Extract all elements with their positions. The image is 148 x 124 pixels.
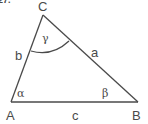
side-label-c: c (72, 108, 79, 123)
vertex-label-a: A (6, 108, 15, 123)
angle-label-alpha: α (17, 87, 25, 100)
side-label-a: a (91, 45, 99, 60)
vertex-label-b: B (132, 108, 141, 123)
triangle-diagram: 27. C A B b a c α β γ (0, 0, 148, 124)
angle-label-gamma: γ (42, 32, 49, 45)
side-label-b: b (15, 48, 22, 63)
gamma-arc (31, 41, 69, 53)
vertex-label-c: C (38, 0, 47, 14)
angle-label-beta: β (102, 87, 108, 100)
header-fragment: 27. (0, 0, 11, 5)
